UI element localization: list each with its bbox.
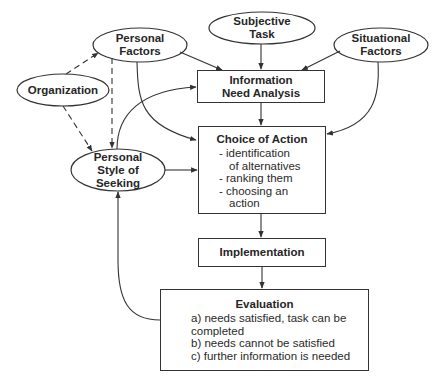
- organization-node: Organization: [17, 74, 109, 106]
- evaluation-item: c) further information is needed: [191, 350, 350, 363]
- evaluation-item: a) needs satisfied, task can be: [191, 312, 350, 325]
- situational-factors-line-1: Situational: [352, 32, 411, 45]
- subjective-task-line-2: Task: [249, 28, 274, 41]
- situational-factors-node: Situational Factors: [334, 28, 428, 62]
- organization-label: Organization: [28, 84, 98, 97]
- info-need-line-2: Need Analysis: [222, 87, 300, 100]
- choice-item: - identification: [219, 147, 301, 160]
- evaluation-list: a) needs satisfied, task can be complete…: [191, 312, 350, 362]
- evaluation-box: Evaluation a) needs satisfied, task can …: [160, 289, 369, 371]
- subjective-task-line-1: Subjective: [233, 15, 291, 28]
- personal-factors-line-2: Factors: [119, 45, 161, 58]
- personal-factors-node: Personal Factors: [93, 28, 187, 62]
- choice-item: action: [219, 197, 301, 210]
- info-need-line-1: Information: [229, 74, 292, 87]
- edge-style-to-info: [117, 87, 196, 149]
- choice-item: - choosing an: [219, 185, 301, 198]
- choice-item: - ranking them: [219, 172, 301, 185]
- personal-style-line-1: Personal: [94, 151, 143, 164]
- edge-evaluation-to-style: [118, 192, 160, 320]
- choice-item: of alternatives: [219, 160, 301, 173]
- implementation-title: Implementation: [220, 246, 305, 259]
- situational-factors-line-2: Factors: [360, 45, 402, 58]
- evaluation-title: Evaluation: [235, 298, 293, 311]
- evaluation-item: completed: [191, 325, 350, 338]
- personal-style-line-2: Style of: [97, 164, 139, 177]
- personal-factors-line-1: Personal: [116, 32, 165, 45]
- edge-personal-to-choice: [137, 62, 196, 140]
- personal-style-node: Personal Style of Seeking: [71, 149, 165, 191]
- edge-situational-to-choice: [327, 62, 378, 134]
- subjective-task-node: Subjective Task: [209, 12, 315, 44]
- personal-style-line-3: Seeking: [96, 177, 140, 190]
- choice-of-action-list: - identification of alternatives - ranki…: [219, 147, 301, 210]
- edge-organization-to-style: [63, 106, 92, 151]
- choice-of-action-title: Choice of Action: [217, 133, 308, 146]
- implementation-box: Implementation: [198, 238, 326, 267]
- evaluation-item: b) needs cannot be satisfied: [191, 337, 350, 350]
- choice-of-action-box: Choice of Action - identification of alt…: [198, 126, 326, 214]
- information-need-analysis-box: Information Need Analysis: [197, 70, 325, 103]
